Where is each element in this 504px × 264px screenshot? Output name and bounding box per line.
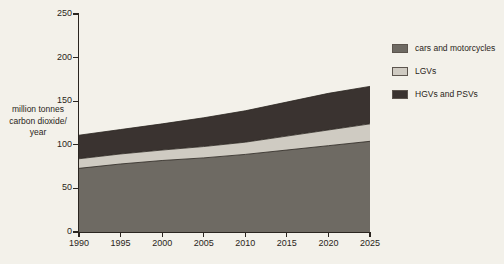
x-axis-tick-label: 2005 — [187, 239, 221, 248]
legend-item-label: LGVs — [415, 66, 436, 76]
y-axis-tick — [73, 101, 78, 102]
x-axis-tick — [286, 233, 287, 237]
y-axis-tick-label: 0 — [44, 227, 72, 236]
y-axis-tick-label: 250 — [44, 9, 72, 18]
area-series-group — [79, 14, 370, 232]
legend-item[interactable]: HGVs and PSVs — [392, 87, 504, 101]
x-axis-tick-label: 2000 — [145, 239, 179, 248]
stacked-area-chart: million tonnes carbon dioxide/ year 0501… — [0, 0, 504, 264]
x-axis-tick-label: 1990 — [62, 239, 96, 248]
x-axis-tick — [78, 233, 79, 237]
plot-area — [79, 14, 370, 232]
x-axis-tick-label: 1995 — [104, 239, 138, 248]
y-axis-tick-label: 50 — [44, 183, 72, 192]
y-axis-tick-label: 200 — [44, 53, 72, 62]
chart-legend: cars and motorcyclesLGVsHGVs and PSVs — [392, 41, 504, 110]
legend-item[interactable]: cars and motorcycles — [392, 41, 504, 55]
y-axis-tick — [73, 13, 78, 14]
x-axis-tick — [162, 233, 163, 237]
x-axis-tick — [369, 233, 370, 237]
x-axis-tick-label: 2025 — [353, 239, 387, 248]
x-axis-tick — [203, 233, 204, 237]
y-axis-tick-label: 100 — [44, 140, 72, 149]
y-axis-tick — [73, 188, 78, 189]
x-axis-tick-label: 2015 — [270, 239, 304, 248]
y-axis-tick — [73, 57, 78, 58]
legend-item-label: HGVs and PSVs — [415, 89, 478, 99]
legend-swatch-icon — [392, 67, 408, 76]
x-axis-tick — [328, 233, 329, 237]
x-axis-tick-label: 2010 — [228, 239, 262, 248]
legend-item[interactable]: LGVs — [392, 64, 504, 78]
y-axis-tick — [73, 144, 78, 145]
y-axis-label: million tonnes carbon dioxide/ year — [2, 104, 74, 139]
legend-swatch-icon — [392, 44, 408, 53]
x-axis-tick — [245, 233, 246, 237]
legend-item-label: cars and motorcycles — [415, 43, 495, 53]
y-axis-tick-label: 150 — [44, 96, 72, 105]
y-axis-tick — [73, 231, 78, 232]
legend-swatch-icon — [392, 90, 408, 99]
x-axis-tick — [120, 233, 121, 237]
x-axis-tick-label: 2020 — [311, 239, 345, 248]
